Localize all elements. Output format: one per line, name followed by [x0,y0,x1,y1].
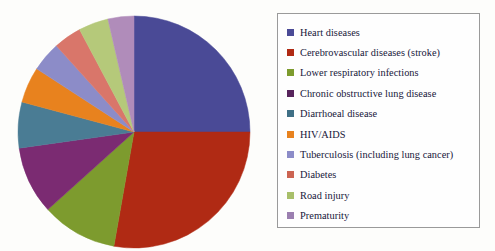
legend-item-label: Heart diseases [300,27,360,38]
legend-item-label: Cerebrovascular diseases (stroke) [300,47,440,58]
legend-item[interactable]: HIV/AIDS [287,124,479,144]
legend-color-swatch [287,151,294,158]
pie-chart-plot-area [16,14,252,250]
legend-item[interactable]: Chronic obstructive lung disease [287,83,479,103]
legend-item-label: Chronic obstructive lung disease [300,88,436,99]
legend-color-swatch [287,29,294,36]
legend-item-label: HIV/AIDS [300,129,346,140]
legend-color-swatch [287,171,294,178]
legend-item[interactable]: Prematurity [287,206,479,226]
legend-color-swatch [287,110,294,117]
legend-item-label: Tuberculosis (including lung cancer) [300,149,453,160]
legend-item[interactable]: Tuberculosis (including lung cancer) [287,144,479,164]
legend-item-label: Diarrhoeal disease [300,108,377,119]
legend-item[interactable]: Cerebrovascular diseases (stroke) [287,42,479,62]
legend-color-swatch [287,90,294,97]
pie-slice[interactable] [134,16,250,132]
legend-item[interactable]: Road injury [287,185,479,205]
legend-color-swatch [287,192,294,199]
legend-item-label: Prematurity [300,210,349,221]
legend-color-swatch [287,131,294,138]
legend-item[interactable]: Diarrhoeal disease [287,104,479,124]
legend-item-label: Lower respiratory infections [300,67,419,78]
pie-slice[interactable] [114,132,250,248]
legend-item[interactable]: Lower respiratory infections [287,63,479,83]
legend-item-label: Diabetes [300,169,336,180]
legend-item-list: Heart diseasesCerebrovascular diseases (… [287,22,479,226]
legend-color-swatch [287,212,294,219]
legend-color-swatch [287,49,294,56]
legend-color-swatch [287,69,294,76]
legend-item[interactable]: Diabetes [287,165,479,185]
pie-chart-svg [16,14,252,250]
legend-item[interactable]: Heart diseases [287,22,479,42]
pie-slice-group [18,16,250,248]
pie-chart-figure: Heart diseasesCerebrovascular diseases (… [0,0,495,251]
legend-item-label: Road injury [300,190,349,201]
chart-legend: Heart diseasesCerebrovascular diseases (… [277,13,480,228]
